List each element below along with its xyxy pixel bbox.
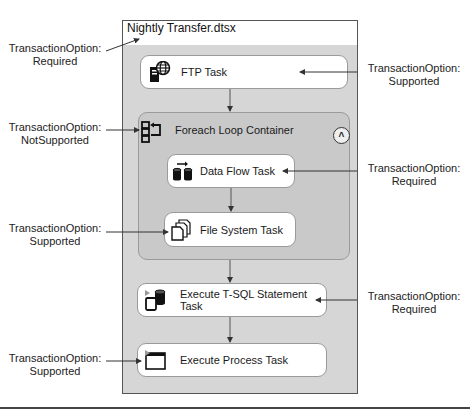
annotation-file-system-task: TransactionOption: Supported [5, 222, 105, 248]
annotation-value: Required [360, 303, 468, 316]
annotation-data-flow-task: TransactionOption: Required [360, 162, 468, 188]
annotation-value: Supported [5, 235, 105, 248]
annotation-value: Supported [5, 365, 105, 378]
figure-divider [0, 407, 470, 409]
annotation-text: TransactionOption: [5, 42, 105, 55]
annotation-text: TransactionOption: [360, 162, 468, 175]
annotation-foreach-loop: TransactionOption: NotSupported [5, 121, 105, 147]
annotation-value: Supported [360, 75, 468, 88]
annotation-execute-process-task: TransactionOption: Supported [5, 352, 105, 378]
annotation-text: TransactionOption: [360, 62, 468, 75]
annotation-text: TransactionOption: [5, 352, 105, 365]
annotation-value: Required [5, 55, 105, 68]
annotation-ftp-task: TransactionOption: Supported [360, 62, 468, 88]
annotation-value: NotSupported [5, 134, 105, 147]
annotation-package: TransactionOption: Required [5, 42, 105, 68]
annotation-text: TransactionOption: [5, 121, 105, 134]
annotation-text: TransactionOption: [360, 290, 468, 303]
annotation-value: Required [360, 175, 468, 188]
annotation-execute-tsql-task: TransactionOption: Required [360, 290, 468, 316]
annotation-text: TransactionOption: [5, 222, 105, 235]
